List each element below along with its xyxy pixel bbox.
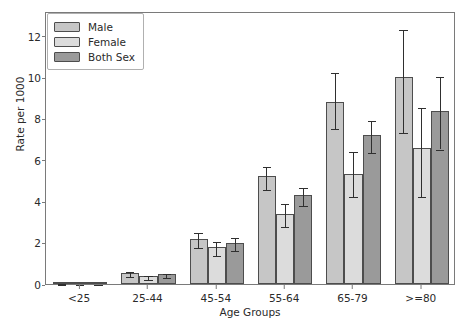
x-tick: 65-79 [337, 285, 368, 304]
y-axis-title: Rate per 1000 [14, 34, 26, 194]
error-bar-line [335, 73, 336, 129]
x-axis: <2525-4445-5455-6465-79>=80 [45, 285, 455, 325]
error-bar-line [403, 30, 404, 133]
error-bar-cap-lower [263, 190, 271, 191]
error-bar-cap-upper [399, 30, 407, 31]
x-tick-mark [79, 285, 80, 289]
error-bar-line [303, 188, 304, 207]
bar-male-3 [258, 176, 276, 284]
error-bar-cap-upper [213, 242, 221, 243]
error-bar-cap-upper [331, 73, 339, 74]
x-tick: 25-44 [132, 285, 163, 304]
x-tick-mark [284, 285, 285, 289]
x-tick-mark [215, 285, 216, 289]
error-bar-line [371, 121, 372, 153]
error-bar-cap-upper [194, 233, 202, 234]
x-tick-label: <25 [68, 292, 90, 304]
x-tick-mark [352, 285, 353, 289]
error-bar-line [440, 77, 441, 149]
bar-chart-figure: 024681012 Rate per 1000 <2525-4445-5455-… [0, 0, 472, 325]
error-bar-line [285, 204, 286, 227]
legend-item-male: Male [54, 19, 135, 34]
x-tick-label: 45-54 [201, 292, 232, 304]
error-bar-line [198, 233, 199, 247]
error-bar-line [353, 152, 354, 198]
error-bar-line [266, 167, 267, 190]
error-bar-cap-lower [299, 206, 307, 207]
legend-label: Both Sex [88, 51, 135, 63]
x-tick-label: 25-44 [132, 292, 163, 304]
error-bar-cap-lower [213, 256, 221, 257]
error-bar-cap-lower [126, 277, 134, 278]
error-bar-cap-lower [436, 150, 444, 151]
error-bar-cap-upper [163, 274, 171, 275]
error-bar-cap-lower [368, 153, 376, 154]
error-bar-line [421, 108, 422, 197]
x-axis-title: Age Groups [45, 306, 455, 318]
error-bar-cap-upper [126, 272, 134, 273]
x-tick-label: >=80 [405, 292, 436, 304]
error-bar-cap-upper [263, 167, 271, 168]
x-tick: 45-54 [201, 285, 232, 304]
error-bar-cap-upper [436, 77, 444, 78]
bar-both-sex-4 [363, 135, 381, 284]
error-bar-line [235, 238, 236, 250]
legend-swatch [54, 37, 80, 47]
error-bar-cap-lower [194, 248, 202, 249]
x-tick: 55-64 [269, 285, 300, 304]
error-bar-cap-lower [349, 197, 357, 198]
error-bar-cap-lower [281, 227, 289, 228]
legend-swatch [54, 22, 80, 32]
legend-item-female: Female [54, 34, 135, 49]
error-bar-cap-upper [368, 121, 376, 122]
error-bar-cap-upper [418, 108, 426, 109]
error-bar-cap-lower [163, 278, 171, 279]
legend-label: Female [88, 36, 126, 48]
legend-item-both-sex: Both Sex [54, 49, 135, 64]
error-bar-cap-lower [231, 251, 239, 252]
bar-both-sex-3 [294, 195, 312, 284]
legend-label: Male [88, 21, 113, 33]
error-bar-cap-lower [418, 197, 426, 198]
chart-legend: MaleFemaleBoth Sex [47, 13, 144, 70]
x-tick-label: 55-64 [269, 292, 300, 304]
error-bar-cap-lower [331, 129, 339, 130]
error-bar-cap-upper [144, 276, 152, 277]
error-bar-cap-lower [399, 133, 407, 134]
x-tick-label: 65-79 [337, 292, 368, 304]
x-tick: <25 [68, 285, 90, 304]
error-bar-cap-upper [299, 188, 307, 189]
error-bar-cap-lower [144, 280, 152, 281]
error-bar-cap-upper [231, 238, 239, 239]
error-bar-cap-upper [281, 204, 289, 205]
legend-swatch [54, 52, 80, 62]
x-tick: >=80 [405, 285, 436, 304]
error-bar-cap-upper [349, 152, 357, 153]
x-tick-mark [420, 285, 421, 289]
x-tick-mark [147, 285, 148, 289]
error-bar-line [216, 242, 217, 256]
